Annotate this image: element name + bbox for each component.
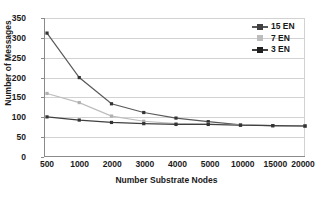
data-point-marker: [110, 121, 113, 124]
y-axis-title: Number of Messages: [3, 3, 13, 123]
data-point-marker: [142, 122, 145, 125]
data-point-marker: [174, 116, 177, 119]
chart-legend: 15 EN 7 EN 3 EN: [252, 21, 295, 56]
y-tick-label: 300: [12, 33, 26, 42]
legend-label: 3 EN: [271, 44, 290, 56]
legend-item-3-en[interactable]: 3 EN: [252, 44, 295, 56]
data-point-marker: [207, 123, 210, 126]
legend-item-15-en[interactable]: 15 EN: [252, 21, 295, 33]
y-tick-label: 250: [12, 53, 26, 62]
x-tick-label: 500: [40, 160, 54, 169]
data-point-marker: [142, 111, 145, 114]
data-point-marker: [110, 114, 113, 117]
y-tick-label: 200: [12, 73, 26, 82]
data-point-marker: [303, 124, 306, 127]
data-point-marker: [45, 31, 48, 34]
chart-figure: 350 300 250 200 150 100 50 0 500 1000 20…: [0, 0, 333, 197]
legend-swatch-icon: [252, 34, 268, 43]
x-tick-label: 1000: [70, 160, 89, 169]
data-point-marker: [271, 124, 274, 127]
data-point-marker: [78, 101, 81, 104]
y-tick-label: 100: [12, 113, 26, 122]
x-tick-label: 5000: [201, 160, 220, 169]
x-tick-label: 20000: [291, 160, 315, 169]
data-point-marker: [45, 115, 48, 118]
x-axis-title: Number Substrate Nodes: [0, 175, 333, 185]
y-tick-label: 50: [17, 133, 26, 142]
series-7-en: [45, 92, 306, 128]
data-point-marker: [45, 92, 48, 95]
x-tick-label: 4000: [168, 160, 187, 169]
x-tick-label: 10000: [231, 160, 255, 169]
y-tick-label: 350: [12, 14, 26, 23]
x-tick-label: 3000: [135, 160, 154, 169]
legend-label: 15 EN: [271, 21, 295, 33]
y-tick-mark: [41, 157, 44, 158]
data-point-marker: [78, 76, 81, 79]
legend-swatch-icon: [252, 45, 268, 54]
legend-swatch-icon: [252, 22, 268, 31]
legend-label: 7 EN: [271, 33, 290, 45]
x-tick-label: 2000: [103, 160, 122, 169]
x-tick-label: 15000: [264, 160, 288, 169]
legend-item-7-en[interactable]: 7 EN: [252, 33, 295, 45]
data-point-marker: [239, 124, 242, 127]
data-point-marker: [110, 102, 113, 105]
data-point-marker: [174, 123, 177, 126]
y-tick-label: 150: [12, 93, 26, 102]
y-tick-label: 0: [21, 153, 26, 162]
data-point-marker: [78, 118, 81, 121]
